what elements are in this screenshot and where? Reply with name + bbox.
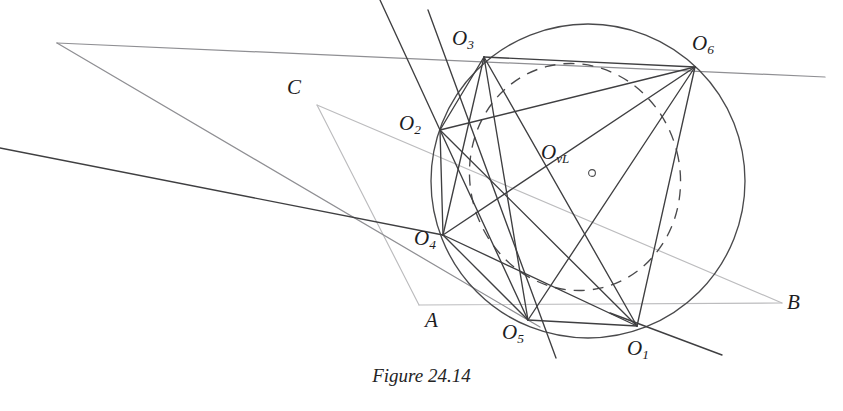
segment-a-b [419, 303, 782, 305]
center-label-ovl: OvL [541, 142, 569, 165]
vertex-label-b: B [787, 292, 800, 313]
segment-c-b [317, 105, 782, 303]
diagonal-o2-o6 [440, 67, 695, 130]
chord-o3-o2 [440, 57, 484, 130]
point-label-o2: O2 [399, 113, 421, 136]
point-label-o4: O4 [414, 228, 436, 251]
diagonal-o2-o1 [440, 130, 637, 326]
point-label-o3: O3 [452, 28, 474, 51]
center-point-marker [586, 166, 600, 180]
point-label-o1: O1 [627, 338, 649, 361]
vertex-label-a: A [425, 310, 438, 331]
geometry-canvas [0, 0, 843, 411]
figure-caption: Figure 24.14 [0, 365, 843, 387]
chord-o1-o6 [637, 67, 695, 326]
vertex-label-c: C [287, 77, 301, 98]
point-label-o5: O5 [502, 322, 524, 345]
chord-o2-o4 [440, 130, 443, 235]
inscribed-conic-dashed [446, 41, 705, 313]
triangle-abc [317, 105, 782, 305]
point-label-o6: O6 [692, 33, 714, 56]
diagonal-o4-o1 [443, 235, 637, 326]
diagonal-o2-o5 [440, 130, 528, 320]
figure-container: O3 O6 O2 O4 O5 O1 OvL A B C Figure 24.14 [0, 0, 843, 411]
ray-o4-left [0, 148, 443, 235]
